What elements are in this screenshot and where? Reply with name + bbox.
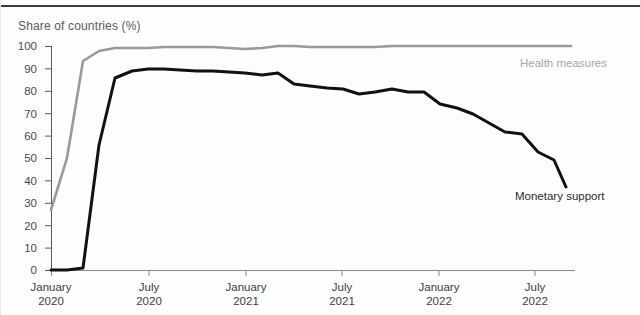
- series-label-monetary-support: Monetary support: [515, 190, 605, 202]
- y-tick-label-20: 20: [11, 220, 37, 232]
- y-tick-label-40: 40: [11, 175, 37, 187]
- x-tick-month: January: [6, 280, 96, 294]
- y-tick-label-100: 100: [11, 40, 37, 52]
- x-tick-label-january-2021: January 2021: [201, 280, 291, 308]
- series-line-health-measures: [51, 46, 571, 210]
- chart-series: [51, 46, 571, 270]
- x-tick-label-january-2022: January 2022: [394, 280, 484, 308]
- y-tick-label-50: 50: [11, 152, 37, 164]
- y-tick-label-70: 70: [11, 108, 37, 120]
- series-line-monetary-support: [51, 69, 566, 270]
- x-tick-label-july-2020: July 2020: [104, 280, 194, 308]
- x-tick-label-july-2021: July 2021: [297, 280, 387, 308]
- line-chart-plot: [1, 0, 640, 315]
- y-axis-ticks: [45, 47, 52, 271]
- x-tick-year: 2021: [201, 294, 291, 308]
- chart-axes: [45, 46, 575, 276]
- y-tick-label-10: 10: [11, 242, 37, 254]
- x-tick-year: 2021: [297, 294, 387, 308]
- series-label-health-measures: Health measures: [520, 57, 607, 69]
- x-tick-month: January: [201, 280, 291, 294]
- x-tick-year: 2022: [490, 294, 580, 308]
- x-tick-month: January: [394, 280, 484, 294]
- x-tick-year: 2020: [104, 294, 194, 308]
- x-tick-label-january-2020: January 2020: [6, 280, 96, 308]
- y-tick-label-0: 0: [11, 264, 37, 276]
- x-tick-year: 2020: [6, 294, 96, 308]
- x-tick-label-july-2022: July 2022: [490, 280, 580, 308]
- x-axis-ticks: [52, 271, 536, 277]
- y-tick-label-30: 30: [11, 197, 37, 209]
- y-tick-label-80: 80: [11, 85, 37, 97]
- y-tick-label-90: 90: [11, 63, 37, 75]
- x-tick-month: July: [297, 280, 387, 294]
- chart-figure: Share of countries (%): [0, 0, 640, 315]
- x-tick-month: July: [104, 280, 194, 294]
- x-tick-month: July: [490, 280, 580, 294]
- y-tick-label-60: 60: [11, 130, 37, 142]
- x-tick-year: 2022: [394, 294, 484, 308]
